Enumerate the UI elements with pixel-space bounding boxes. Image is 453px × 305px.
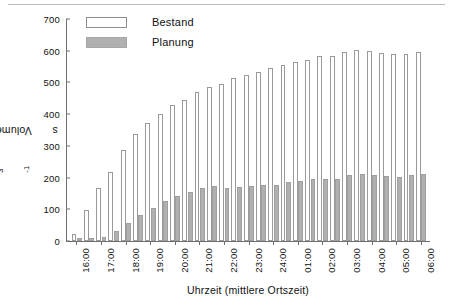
chart-legend: Bestand Planung	[86, 12, 194, 52]
legend-label-bestand: Bestand	[152, 16, 194, 28]
x-axis-title: Uhrzeit (mittlere Ortszeit)	[66, 284, 430, 296]
x-tick-mark	[126, 241, 127, 245]
bar-bestand-01-30	[305, 60, 310, 241]
bar-planung-17-00	[102, 237, 107, 241]
bar-bestand-18-30	[133, 134, 138, 241]
bar-planung-03-00	[347, 175, 352, 241]
x-tick-mark	[199, 241, 200, 245]
y-tick-mark	[66, 209, 70, 210]
y-axis-title: Volumenfluß in m3s-1	[0, 19, 20, 241]
y-tick-label: 300	[44, 140, 66, 151]
bar-bestand-20-30	[182, 100, 187, 241]
bar-bestand-24-00	[268, 68, 273, 241]
bar-planung-20-00	[175, 196, 180, 241]
x-tick-label: 22:00	[228, 248, 239, 273]
bar-bestand-21-30	[207, 87, 212, 241]
x-tick-mark	[175, 241, 176, 245]
x-tick-label: 19:00	[154, 248, 165, 273]
bar-planung-05-30	[409, 175, 414, 241]
bar-bestand-19-30	[158, 114, 163, 241]
bar-bestand-05-00	[391, 54, 396, 241]
legend-item-planung: Planung	[86, 32, 194, 52]
y-axis-title-exponent-1: 3	[0, 168, 5, 172]
bar-bestand-03-00	[342, 52, 347, 241]
bar-planung-06-00	[421, 174, 426, 241]
bar-planung-20-30	[188, 192, 193, 241]
legend-label-planung: Planung	[152, 36, 194, 48]
bar-planung-23-00	[249, 186, 254, 241]
y-axis-title-mid: s	[0, 124, 57, 136]
bar-planung-19-30	[163, 201, 168, 241]
bar-bestand-21-00	[195, 92, 200, 241]
bar-planung-02-30	[335, 179, 340, 241]
x-tick-label: 18:00	[130, 248, 141, 273]
bar-planung-22-00	[225, 188, 230, 241]
y-tick-mark	[66, 241, 70, 242]
bar-bestand-23-00	[244, 75, 249, 241]
bar-bestand-17-00	[96, 188, 101, 241]
x-tick-mark	[347, 241, 348, 245]
x-tick-mark	[273, 241, 274, 245]
bar-bestand-16-30	[84, 210, 89, 241]
y-tick-label: 600	[44, 45, 66, 56]
legend-item-bestand: Bestand	[86, 12, 194, 32]
y-tick-mark	[66, 145, 70, 146]
y-tick-label: 100	[44, 204, 66, 215]
bar-planung-18-30	[138, 215, 143, 241]
legend-swatch-bestand-icon	[86, 17, 127, 28]
x-tick-mark	[101, 241, 102, 245]
bar-planung-04-00	[372, 175, 377, 241]
legend-swatch-planung-icon	[86, 37, 127, 48]
x-tick-label: 03:00	[351, 248, 362, 273]
bar-planung-22-30	[237, 187, 242, 241]
y-axis-title-exponent-2: -1	[21, 165, 30, 172]
y-tick-label: 500	[44, 77, 66, 88]
bar-bestand-04-30	[379, 53, 384, 241]
bar-planung-01-30	[311, 179, 316, 241]
bar-planung-18-00	[126, 223, 131, 241]
bar-planung-03-30	[360, 174, 365, 241]
x-tick-mark	[150, 241, 151, 245]
x-tick-label: 17:00	[105, 248, 116, 273]
y-tick-mark	[66, 50, 70, 51]
bar-bestand-01-00	[293, 62, 298, 241]
bar-bestand-20-00	[170, 105, 175, 241]
x-tick-mark	[322, 241, 323, 245]
y-tick-mark	[66, 177, 70, 178]
bar-bestand-22-30	[231, 78, 236, 241]
bar-planung-16-30	[89, 238, 94, 241]
bar-planung-24-00	[274, 185, 279, 241]
bar-planung-04-30	[384, 176, 389, 241]
bar-planung-02-00	[323, 179, 328, 241]
y-tick-label: 200	[44, 172, 66, 183]
x-tick-mark	[396, 241, 397, 245]
bar-bestand-05-30	[404, 54, 409, 241]
x-tick-label: 16:00	[80, 248, 91, 273]
x-tick-label: 23:00	[253, 248, 264, 273]
bar-planung-23-30	[261, 185, 266, 241]
bar-bestand-02-00	[317, 56, 322, 241]
x-tick-label: 04:00	[376, 248, 387, 273]
bar-planung-01-00	[298, 181, 303, 241]
bar-planung-21-30	[212, 186, 217, 241]
x-tick-mark	[76, 241, 77, 245]
x-tick-mark	[249, 241, 250, 245]
bar-planung-00-30	[286, 182, 291, 241]
x-tick-label: 02:00	[326, 248, 337, 273]
x-tick-mark	[372, 241, 373, 245]
y-tick-label: 400	[44, 109, 66, 120]
bar-planung-16-00	[77, 238, 82, 241]
bar-bestand-22-00	[219, 84, 224, 241]
bar-bestand-17-30	[108, 172, 113, 241]
bar-bestand-19-00	[145, 123, 150, 241]
bar-bestand-16-00	[72, 234, 77, 241]
chart-figure: Volumenfluß in m3s-1 0100200300400500600…	[0, 0, 453, 305]
x-tick-mark	[421, 241, 422, 245]
x-tick-label: 24:00	[277, 248, 288, 273]
bar-bestand-23-30	[256, 72, 261, 241]
plot-area: 0100200300400500600700 16:0017:0018:0019…	[66, 19, 430, 241]
bar-planung-19-00	[151, 208, 156, 241]
bar-bestand-18-00	[121, 150, 126, 241]
x-tick-label: 06:00	[425, 248, 436, 273]
x-tick-label: 21:00	[203, 248, 214, 273]
